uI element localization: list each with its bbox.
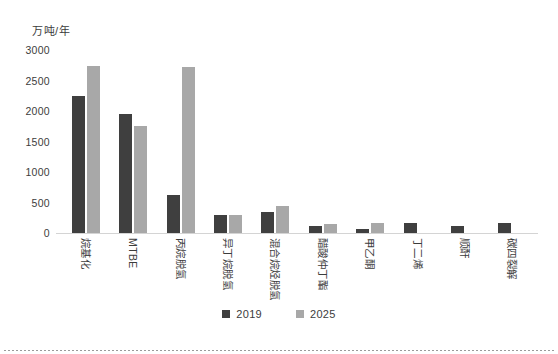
x-axis-label: 甲乙酮 (363, 238, 378, 269)
bar (309, 226, 322, 233)
y-axis-tick-1000: 1000 (25, 166, 50, 178)
x-axis-label: 丙烷脱氢 (173, 238, 188, 280)
bar-group (441, 50, 488, 233)
bar-groups (62, 50, 536, 233)
x-axis-label: 混合烷烃脱氢 (268, 238, 283, 300)
bar (324, 224, 337, 233)
legend-swatch-icon (296, 310, 304, 318)
x-axis-label: 顺酐 (457, 238, 472, 259)
bar-group (157, 50, 204, 233)
bar (229, 215, 242, 233)
y-axis-tick-500: 500 (32, 197, 50, 209)
x-axis-label: 碳四裂解 (505, 238, 520, 280)
bar (371, 223, 384, 233)
y-axis-tick-2000: 2000 (25, 105, 50, 117)
bar-group (299, 50, 346, 233)
bar (119, 114, 132, 233)
bar-chart-figure: 万吨/年 050010001500200025003000 烷基化MTBE丙烷脱… (0, 0, 558, 354)
x-axis-label: MTBE (127, 238, 139, 269)
bar (134, 126, 147, 233)
bar-group (489, 50, 536, 233)
bar (404, 223, 417, 233)
bar (72, 96, 85, 233)
bar-group (252, 50, 299, 233)
x-axis-baseline (56, 233, 538, 234)
bar (498, 223, 511, 233)
y-axis-tick-labels: 050010001500200025003000 (0, 50, 56, 234)
bar-group (62, 50, 109, 233)
y-axis-tick-3000: 3000 (25, 44, 50, 56)
y-axis-tick-2500: 2500 (25, 75, 50, 87)
bar (451, 226, 464, 233)
x-axis-label: 醋酸仲丁酯 (315, 238, 330, 290)
x-axis-label: 烷基化 (78, 238, 93, 269)
chart-legend: 20192025 (0, 308, 558, 320)
bottom-divider (4, 350, 554, 351)
bar (167, 195, 180, 233)
legend-label: 2019 (236, 308, 262, 320)
bar-group (346, 50, 393, 233)
bar (87, 66, 100, 233)
x-axis-label: 异丁烷脱氢 (220, 238, 235, 290)
bar-group (394, 50, 441, 233)
x-axis-label: 丁二烯 (410, 238, 425, 269)
bar (261, 212, 274, 233)
bar-group (109, 50, 156, 233)
y-axis-tick-0: 0 (44, 227, 50, 239)
y-axis-tick-1500: 1500 (25, 136, 50, 148)
bar-group (204, 50, 251, 233)
bar (214, 215, 227, 233)
bar (356, 229, 369, 233)
legend-item-2025[interactable]: 2025 (296, 308, 336, 320)
legend-item-2019[interactable]: 2019 (222, 308, 262, 320)
legend-swatch-icon (222, 310, 230, 318)
legend-label: 2025 (310, 308, 336, 320)
bar (276, 206, 289, 233)
y-axis-title: 万吨/年 (32, 22, 70, 38)
bar (182, 67, 195, 233)
